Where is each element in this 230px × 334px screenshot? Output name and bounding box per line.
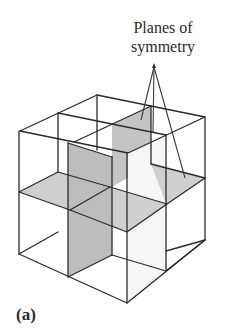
vertical-plane-front-shade bbox=[68, 143, 112, 277]
panel-label: (a) bbox=[16, 305, 36, 325]
cube-symmetry-diagram bbox=[0, 0, 230, 334]
